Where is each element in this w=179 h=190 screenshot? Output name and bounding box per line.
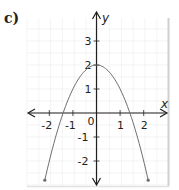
x-tick-label: -2 — [41, 119, 52, 132]
curve-end-arrow-icon — [147, 179, 150, 182]
x-tick-label: 2 — [141, 119, 148, 132]
y-tick-label: -2 — [78, 155, 89, 168]
x-tick-label: 1 — [117, 119, 124, 132]
y-tick-label: 3 — [85, 35, 92, 48]
y-tick-label: 1 — [85, 83, 92, 96]
parabola-chart: -2-1012-2-1123 x y — [0, 0, 179, 190]
x-tick-label: 0 — [88, 115, 95, 128]
curve-end-arrow-icon — [43, 179, 46, 182]
x-tick-label: -1 — [65, 119, 76, 132]
x-axis-label: x — [160, 97, 169, 111]
ticks: -2-1012-2-1123 — [41, 35, 147, 168]
y-tick-label: -1 — [78, 131, 89, 144]
y-axis-label: y — [101, 11, 110, 25]
